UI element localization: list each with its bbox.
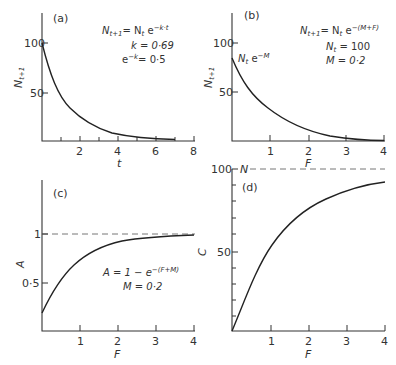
panel-b-label: (b) [244, 9, 260, 22]
panel-d-xtick-label-1: 1 [268, 335, 275, 348]
svg-text:A: A [14, 260, 27, 269]
panel-c-xtick-label-3: 3 [152, 335, 159, 348]
panel-a-ek-value: e−k= 0·5 [122, 53, 166, 65]
panel-d-ytick-label-50: 50 [217, 246, 231, 259]
panel-d-ytick-label-100: 100 [211, 163, 232, 176]
panel-b-m-value: M = 0·2 [326, 55, 365, 66]
panel-c-ytick-label-0.5: 0·5 [22, 277, 40, 290]
svg-text:Nt+1: Nt+1 [12, 67, 26, 88]
panel-c: 1 0·5 1 2 3 4 F A (c) A = 1 − e−(F+M) M … [14, 180, 197, 361]
panel-b-ytick-label-50: 50 [219, 86, 233, 99]
panel-a-xtick-label-8: 8 [190, 145, 197, 158]
panel-c-xtick-label-4: 4 [190, 335, 197, 348]
panel-d-ylabel: C [196, 248, 209, 256]
panel-b-ylabel: Nt+1 [202, 67, 216, 88]
panel-c-xtick-label-1: 1 [77, 335, 84, 348]
panel-b-ytick-label-100: 100 [213, 37, 234, 50]
panel-b-xtick-label-3: 3 [343, 145, 350, 158]
panel-d-xtick-label-3: 3 [343, 335, 350, 348]
panel-a-ylabel: Nt+1 [12, 67, 26, 88]
panel-a-xlabel: t [117, 157, 122, 170]
panel-a-xtick-label-6: 6 [152, 145, 159, 158]
figure-canvas: 100 50 2 4 6 8 t Nt+1 (a) Nt+1= Nt e−k·t… [0, 0, 396, 365]
panel-c-ylabel: A [14, 260, 27, 269]
panel-a-ytick-label-50: 50 [30, 87, 44, 100]
panel-a-xtick-label-2: 2 [76, 145, 83, 158]
panel-c-ytick-label-1: 1 [34, 228, 41, 241]
panel-b-xlabel: F [305, 157, 312, 170]
panel-d-label: (d) [242, 181, 258, 194]
panel-c-xlabel: F [114, 348, 121, 361]
panel-b: 100 50 1 2 3 4 F Nt+1 (b) Nt+1= Nt e−(M+… [202, 9, 387, 170]
panel-d-ref-label: N [240, 163, 248, 176]
panel-c-xtick-label-2: 2 [114, 335, 121, 348]
panel-b-equation: Nt+1= Nt e−(M+F) [300, 24, 379, 38]
panel-b-xtick-label-1: 1 [267, 145, 274, 158]
svg-text:Nt+1: Nt+1 [202, 67, 216, 88]
panel-a-equation: Nt+1= Nt e−k·t [102, 24, 169, 38]
svg-text:C: C [196, 248, 209, 256]
panel-d-xtick-label-2: 2 [305, 335, 312, 348]
panel-d-xlabel: F [305, 348, 312, 361]
panel-a-k-value: k = 0·69 [131, 40, 174, 51]
panel-c-label: (c) [53, 187, 68, 200]
panel-c-axes [42, 180, 195, 331]
panel-c-m-value: M = 0·2 [123, 281, 162, 292]
panel-d-xtick-label-4: 4 [381, 335, 388, 348]
panel-a: 100 50 2 4 6 8 t Nt+1 (a) Nt+1= Nt e−k·t… [12, 12, 197, 170]
panel-b-xtick-label-4: 4 [380, 145, 387, 158]
panel-d-c-curve [232, 182, 385, 331]
panel-b-nt-value: Nt = 100 [326, 41, 370, 54]
panel-d: 100 N 50 1 2 3 4 F C (d) [196, 163, 388, 361]
panel-c-equation: A = 1 − e−(F+M) [102, 266, 179, 278]
panel-b-catch-curve [232, 58, 384, 141]
panel-b-curve-label: Nt e−M [238, 52, 269, 66]
panel-a-label: (a) [53, 12, 68, 25]
